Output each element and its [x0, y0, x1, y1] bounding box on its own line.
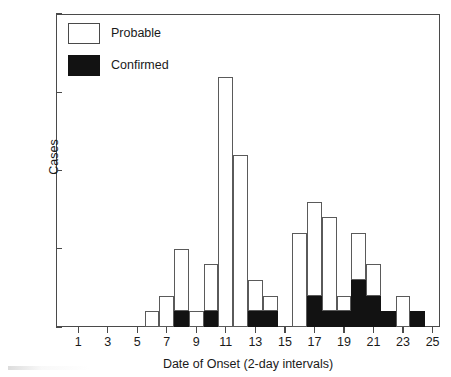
x-tick-mark [107, 327, 108, 333]
x-tick-label: 15 [272, 336, 298, 349]
epidemic-curve-chart: Cases Date of Onset (2-day intervals) 05… [0, 0, 451, 377]
legend-item-confirmed: Confirmed [68, 54, 169, 76]
x-tick-mark [255, 327, 256, 333]
bar-stack [366, 264, 381, 327]
bar-segment-probable [204, 264, 219, 311]
bar-stack [263, 296, 278, 327]
y-tick-mark [56, 326, 62, 327]
x-tick-label: 1 [65, 336, 91, 349]
bar-stack [204, 264, 219, 327]
bar-stack [233, 155, 248, 327]
x-tick-mark [343, 327, 344, 333]
x-tick-label: 9 [183, 336, 209, 349]
y-tick-mark [56, 170, 62, 171]
legend-item-probable: Probable [68, 22, 169, 44]
x-tick-mark [314, 327, 315, 333]
x-tick-label: 13 [242, 336, 268, 349]
x-tick-mark [432, 327, 433, 333]
bar-segment-confirmed [410, 311, 425, 327]
x-tick-mark [225, 327, 226, 333]
x-tick-label: 17 [301, 336, 327, 349]
x-tick-mark [78, 327, 79, 333]
x-tick-label: 5 [124, 336, 150, 349]
bar-segment-confirmed [322, 311, 337, 327]
bar-segment-probable [159, 296, 174, 327]
x-axis-title: Date of Onset (2-day intervals) [56, 357, 440, 371]
y-tick-mark [56, 248, 62, 249]
bar-segment-probable [307, 202, 322, 296]
bar-segment-probable [263, 296, 278, 312]
bar-segment-probable [366, 264, 381, 295]
bar-stack [396, 296, 411, 327]
bar-segment-confirmed [263, 311, 278, 327]
x-tick-mark [166, 327, 167, 333]
bar-segment-confirmed [351, 280, 366, 327]
bar-stack [410, 311, 425, 327]
bar-segment-probable [189, 311, 204, 327]
chart-legend: Probable Confirmed [68, 22, 169, 86]
x-tick-label: 19 [331, 336, 357, 349]
bar-segment-probable [292, 233, 307, 327]
scan-artifact [8, 366, 104, 370]
bar-segment-probable [218, 77, 233, 327]
bar-segment-probable [233, 155, 248, 327]
legend-label-confirmed: Confirmed [111, 58, 169, 72]
x-tick-label: 11 [213, 336, 239, 349]
x-tick-mark [402, 327, 403, 333]
legend-swatch-probable-icon [68, 23, 100, 44]
legend-label-probable: Probable [111, 26, 161, 40]
bar-segment-probable [337, 296, 352, 312]
x-tick-label: 21 [361, 336, 387, 349]
bar-stack [292, 233, 307, 327]
y-tick-mark [56, 92, 62, 93]
bar-stack [189, 311, 204, 327]
bar-segment-probable [248, 280, 263, 311]
bar-stack [248, 280, 263, 327]
x-tick-label: 7 [154, 336, 180, 349]
bar-segment-confirmed [337, 311, 352, 327]
bar-stack [174, 249, 189, 327]
bar-segment-probable [351, 233, 366, 280]
x-tick-label: 3 [95, 336, 121, 349]
bar-segment-confirmed [366, 296, 381, 327]
x-tick-label: 23 [390, 336, 416, 349]
bar-segment-confirmed [248, 311, 263, 327]
bar-segment-confirmed [307, 296, 322, 327]
x-tick-mark [373, 327, 374, 333]
bar-segment-probable [322, 217, 337, 311]
bar-segment-confirmed [174, 311, 189, 327]
bar-stack [351, 233, 366, 327]
legend-swatch-confirmed-icon [68, 55, 100, 76]
bar-segment-probable [174, 249, 189, 312]
bar-stack [337, 296, 352, 327]
bar-stack [381, 311, 396, 327]
bar-stack [307, 202, 322, 327]
bar-segment-confirmed [381, 311, 396, 327]
bar-stack [322, 217, 337, 327]
bar-stack [145, 311, 160, 327]
y-tick-mark [56, 13, 62, 14]
x-tick-label: 25 [420, 336, 446, 349]
bar-segment-confirmed [204, 311, 219, 327]
bar-stack [218, 77, 233, 327]
bar-segment-probable [145, 311, 160, 327]
x-tick-mark [284, 327, 285, 333]
bar-segment-probable [396, 296, 411, 327]
y-axis-title: Cases [47, 97, 61, 217]
bar-stack [159, 296, 174, 327]
x-tick-mark [196, 327, 197, 333]
x-tick-mark [137, 327, 138, 333]
